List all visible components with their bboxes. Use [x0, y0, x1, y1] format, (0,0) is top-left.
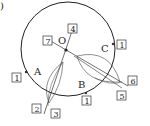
- point-a-dot: [25, 71, 27, 73]
- svg-text:7: 7: [46, 37, 51, 46]
- center-label: O: [58, 35, 66, 46]
- step-box-3: 3: [51, 109, 60, 119]
- step-box-2: 2: [32, 104, 41, 114]
- corner-mark: ): [0, 0, 4, 11]
- svg-text:2: 2: [35, 105, 40, 114]
- svg-text:1: 1: [120, 41, 125, 50]
- point-c-label: C: [101, 43, 109, 54]
- svg-text:4: 4: [71, 25, 76, 34]
- svg-text:6: 6: [131, 77, 136, 86]
- step-box-4: 4: [68, 24, 77, 34]
- point-a-label: A: [33, 66, 42, 77]
- step-box-c: 1: [117, 40, 126, 50]
- step-box-5: 5: [117, 91, 126, 101]
- svg-text:1: 1: [15, 74, 20, 83]
- point-b-label: B: [78, 79, 85, 90]
- point-b-dot: [85, 92, 87, 94]
- svg-text:1: 1: [85, 97, 90, 106]
- step-box-6: 6: [128, 76, 137, 86]
- point-c-dot: [112, 43, 114, 45]
- svg-text:5: 5: [120, 92, 125, 101]
- step-box-7: 7: [43, 36, 52, 46]
- geometry-diagram: ) O A B C 1 1 1 2 3 4: [0, 0, 150, 126]
- step-box-a: 1: [12, 73, 21, 83]
- svg-text:3: 3: [54, 110, 59, 119]
- step-box-b: 1: [82, 96, 91, 106]
